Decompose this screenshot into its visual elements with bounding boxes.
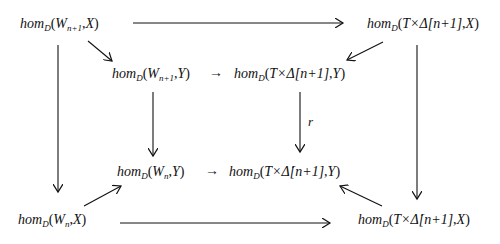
node-inner-bottom-left: homD(Wn,Y) — [117, 164, 184, 180]
hom-label: hom — [358, 212, 382, 227]
first-argument: W — [53, 212, 65, 227]
close-paren: ) — [474, 16, 479, 31]
second-argument: Y — [172, 164, 180, 179]
close-paren: ) — [185, 66, 190, 81]
arrows-layer — [0, 0, 500, 244]
hom-label: hom — [229, 164, 253, 179]
first-argument: T×Δ̇[n+1] — [393, 212, 453, 227]
first-argument: T×Δ[n+1] — [402, 16, 462, 31]
node-inner-top-right: homD(T×Δ[n+1],Y) — [234, 66, 345, 82]
first-argument: W — [152, 164, 164, 179]
second-argument: X — [466, 16, 475, 31]
second-argument: X — [73, 212, 82, 227]
arrow-bl-diagonal — [84, 186, 121, 206]
close-paren: ) — [465, 212, 470, 227]
arrow-br-diagonal — [340, 186, 382, 206]
inline-arrow-bottom: → — [205, 163, 219, 179]
first-argument: W — [147, 66, 159, 81]
node-inner-bottom-right: homD(T×Δ̇[n+1],Y) — [229, 164, 340, 180]
close-paren: ) — [340, 66, 345, 81]
second-argument: X — [457, 212, 466, 227]
arrow-tl-diagonal — [88, 41, 112, 61]
hom-label: hom — [367, 16, 391, 31]
hom-label: hom — [112, 66, 136, 81]
second-argument: X — [86, 16, 95, 31]
close-paren: ) — [94, 16, 99, 31]
close-paren: ) — [335, 164, 340, 179]
node-inner-top-left: homD(Wn+1,Y) — [112, 66, 190, 82]
node-outer-top-right: homD(T×Δ[n+1],X) — [367, 16, 479, 32]
hom-label: hom — [18, 212, 42, 227]
node-outer-bottom-right: homD(T×Δ̇[n+1],X) — [358, 212, 470, 228]
first-argument-subscript: n+1 — [159, 73, 174, 83]
node-outer-top-left: homD(Wn+1,X) — [20, 16, 99, 32]
close-paren: ) — [82, 212, 87, 227]
arrow-tr-diagonal — [347, 42, 383, 60]
hom-label: hom — [234, 66, 258, 81]
hom-label: hom — [117, 164, 141, 179]
node-outer-bottom-left: homD(Wn,X) — [18, 212, 86, 228]
edge-label-r: r — [308, 114, 313, 130]
close-paren: ) — [180, 164, 185, 179]
first-argument-subscript: n+1 — [67, 23, 82, 33]
inline-arrow-top: → — [209, 65, 223, 81]
first-argument: T×Δ̇[n+1] — [264, 164, 324, 179]
hom-label: hom — [20, 16, 44, 31]
first-argument: W — [55, 16, 67, 31]
first-argument: T×Δ[n+1] — [269, 66, 329, 81]
